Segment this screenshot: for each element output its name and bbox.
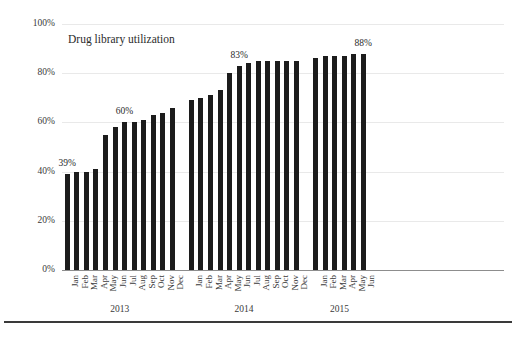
bar	[323, 56, 328, 270]
bar	[84, 172, 89, 270]
gridline	[62, 24, 504, 25]
bar	[265, 61, 270, 270]
x-axis-tick-label: Aug	[262, 275, 271, 291]
bar	[74, 172, 79, 270]
y-axis-tick-label: 60%	[38, 118, 55, 128]
gridline	[62, 122, 504, 123]
bar	[342, 56, 347, 270]
bar	[122, 122, 127, 270]
data-label: 88%	[355, 39, 372, 49]
x-axis-tick-label: Oct	[281, 275, 290, 288]
bar	[160, 113, 165, 270]
bar	[151, 115, 156, 270]
x-axis-group-label: 2014	[234, 305, 253, 315]
bar	[351, 54, 356, 270]
bar	[218, 90, 223, 270]
y-axis-tick-label: 40%	[38, 167, 55, 177]
x-axis-tick-label: Feb	[205, 275, 214, 289]
x-axis-group-label: 2013	[110, 305, 129, 315]
gridline	[62, 73, 504, 74]
data-label: 39%	[59, 159, 76, 169]
y-axis-tick-label: 80%	[38, 68, 55, 78]
x-axis-tick-label: Jun	[243, 275, 252, 288]
data-label: 83%	[230, 51, 247, 61]
bar	[132, 122, 137, 270]
bar	[256, 61, 261, 270]
x-axis-tick-label: Jan	[71, 275, 80, 287]
x-axis-tick-label: Mar	[90, 275, 99, 290]
bar	[294, 61, 299, 270]
data-label: 60%	[116, 107, 133, 117]
bar	[208, 95, 213, 270]
x-axis-tick-label: Oct	[157, 275, 166, 288]
y-axis-tick-label: 20%	[38, 216, 55, 226]
bar	[227, 73, 232, 270]
y-axis-tick-label: 0%	[42, 265, 55, 275]
x-axis-group-label: 2015	[330, 305, 349, 315]
gridline	[62, 172, 504, 173]
bar	[198, 98, 203, 270]
x-axis-tick-label: Dec	[176, 275, 185, 290]
bar	[361, 54, 366, 270]
bar	[103, 135, 108, 270]
bar	[141, 120, 146, 270]
x-axis-line	[62, 270, 504, 271]
x-axis-tick-label: Dec	[300, 275, 309, 290]
x-axis-tick-label: Aug	[138, 275, 147, 291]
bar	[237, 66, 242, 270]
gridline	[62, 221, 504, 222]
y-axis-tick-label: 100%	[33, 19, 55, 29]
bar	[65, 174, 70, 270]
bar	[313, 58, 318, 270]
bar	[284, 61, 289, 270]
plot-area: 0%20%40%60%80%100% 39%60%83%88%	[62, 24, 504, 270]
x-axis-tick-label: Feb	[329, 275, 338, 289]
bar	[189, 100, 194, 270]
x-axis-tick-label: Apr	[348, 275, 357, 289]
footer-rule	[4, 321, 512, 323]
bar	[246, 63, 251, 270]
chart-figure: Drug library utilization 0%20%40%60%80%1…	[0, 0, 516, 339]
bar	[93, 169, 98, 270]
bar	[113, 127, 118, 270]
bar	[275, 61, 280, 270]
x-axis-tick-label: Jun	[119, 275, 128, 288]
x-axis-tick-label: Apr	[224, 275, 233, 289]
bar	[170, 108, 175, 270]
x-axis-tick-label: Jun	[367, 275, 376, 288]
bar	[332, 56, 337, 270]
